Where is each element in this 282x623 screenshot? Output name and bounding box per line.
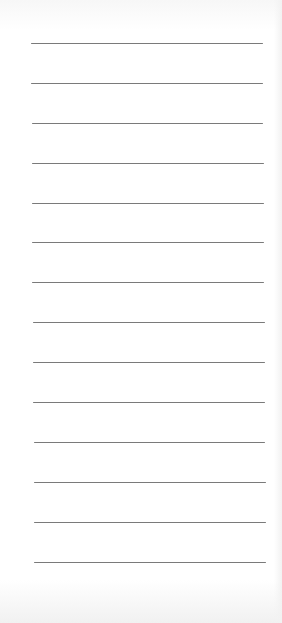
lined-paper-page — [0, 0, 282, 623]
ruled-line — [32, 123, 263, 124]
ruled-line — [33, 322, 265, 323]
ruled-line — [34, 562, 266, 563]
ruled-line — [34, 482, 266, 483]
ruled-line — [32, 242, 264, 243]
ruled-line — [32, 282, 264, 283]
page-edge-shadow — [274, 0, 282, 623]
ruled-line — [33, 362, 265, 363]
ruled-line — [31, 83, 263, 84]
ruled-line — [34, 442, 265, 443]
ruled-line — [31, 43, 263, 44]
ruled-line — [34, 522, 266, 523]
ruled-line — [33, 402, 265, 403]
ruled-line — [32, 163, 264, 164]
ruled-line — [32, 203, 264, 204]
